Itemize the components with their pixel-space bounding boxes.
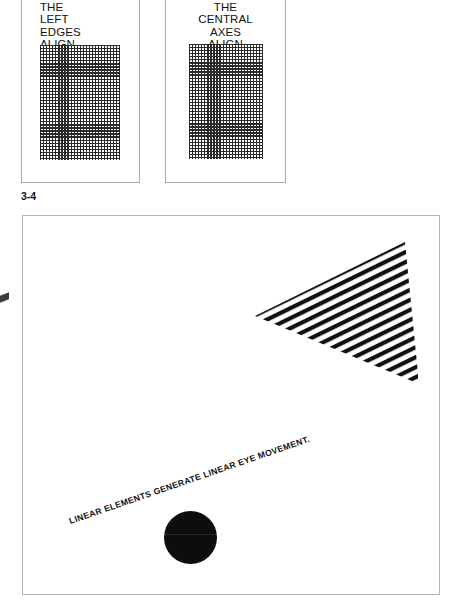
solid-black-circle (164, 511, 217, 564)
demo-panel-left-edges: THE LEFT EDGES ALIGN (21, 0, 140, 183)
page-edge-artifact (0, 292, 9, 303)
linear-elements-figure: LINEAR ELEMENTS GENERATE LINEAR EYE MOVE… (22, 215, 440, 595)
alignment-demo-section: THE LEFT EDGES ALIGN THE CENTRAL AXES AL… (0, 0, 460, 200)
demo-panel-central-axes: THE CENTRAL AXES ALIGN (165, 0, 286, 183)
striped-triangle-icon (253, 234, 418, 394)
panel-caption-left-edges: THE LEFT EDGES ALIGN (40, 1, 139, 51)
figure-number-label: 3-4 (21, 190, 36, 202)
grid-pattern-central-axes (189, 44, 263, 159)
panel-inner: THE LEFT EDGES ALIGN (22, 1, 139, 51)
grid-pattern-left-edges (40, 45, 120, 160)
